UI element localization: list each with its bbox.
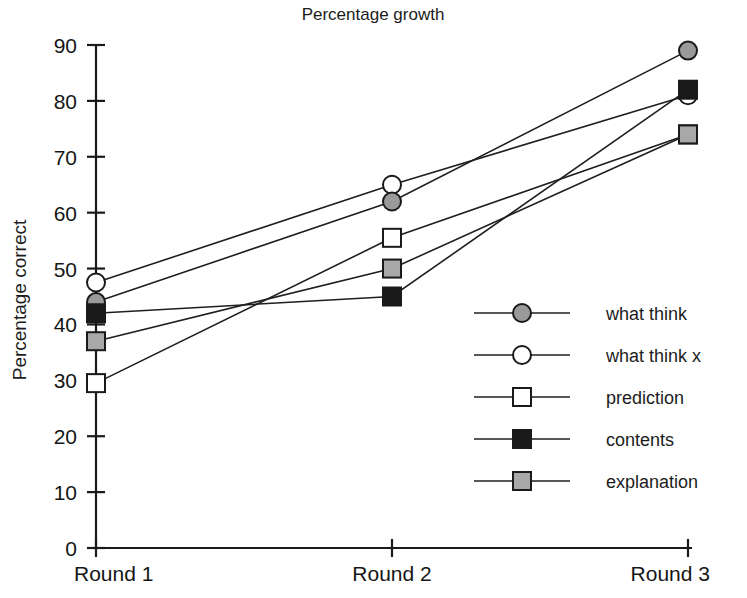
y-tick-label: 80: [54, 90, 77, 113]
series-2-pt-0-open-square-marker: [87, 374, 105, 392]
y-tick-label: 40: [54, 313, 77, 336]
series-4-pt-0-gray-square-marker: [87, 332, 105, 350]
legend-label-1: what think x: [605, 346, 701, 366]
legend-0-gray-circle-marker: [513, 304, 531, 322]
series-lines: [96, 51, 688, 384]
legend-label-4: explanation: [606, 472, 698, 492]
y-tick-label: 50: [54, 258, 77, 281]
y-axis-title: Percentage correct: [9, 219, 30, 380]
x-tick-label-2: Round 2: [352, 562, 431, 585]
y-tick-label: 20: [54, 425, 77, 448]
y-tick-label: 0: [65, 537, 77, 560]
series-2-pt-1-open-square-marker: [383, 229, 401, 247]
y-tick-label: 60: [54, 202, 77, 225]
series-3-pt-1-black-square-marker: [383, 288, 401, 306]
series-0-pt-2-gray-circle-marker: [679, 42, 697, 60]
legend-entry-3: contents: [474, 430, 674, 450]
y-tick-label: 70: [54, 146, 77, 169]
series-4-pt-1-gray-square-marker: [383, 260, 401, 278]
y-tick-label: 10: [54, 481, 77, 504]
legend-entry-2: prediction: [474, 388, 684, 408]
line-chart: Percentage growth Percentage correct 010…: [0, 0, 747, 598]
legend-1-open-circle-marker: [513, 346, 531, 364]
series-3-pt-0-black-square-marker: [87, 304, 105, 322]
series-1-pt-0-open-circle-marker: [87, 274, 105, 292]
y-tick-label: 30: [54, 369, 77, 392]
chart-title: Percentage growth: [302, 5, 445, 24]
legend-label-2: prediction: [606, 388, 684, 408]
legend-entry-0: what think: [474, 304, 688, 324]
series-3-pt-2-black-square-marker: [679, 81, 697, 99]
series-1-pt-1-open-circle-marker: [383, 176, 401, 194]
legend-label-3: contents: [606, 430, 674, 450]
x-tick-label-3: Round 3: [631, 562, 710, 585]
legend-2-open-square-marker: [513, 388, 531, 406]
chart-container: Percentage growth Percentage correct 010…: [0, 0, 747, 598]
x-axis-ticks: Round 1Round 2Round 3: [74, 539, 710, 585]
series-4-pt-2-gray-square-marker: [679, 125, 697, 143]
chart-legend: what thinkwhat think xpredictioncontents…: [474, 304, 701, 492]
legend-label-0: what think: [605, 304, 688, 324]
legend-entry-1: what think x: [474, 346, 701, 366]
legend-3-black-square-marker: [513, 430, 531, 448]
series-0-pt-1-gray-circle-marker: [383, 192, 401, 210]
legend-4-gray-square-marker: [513, 472, 531, 490]
x-tick-label-1: Round 1: [74, 562, 153, 585]
series-markers: [87, 42, 697, 393]
y-tick-label: 90: [54, 34, 77, 57]
legend-entry-4: explanation: [474, 472, 698, 492]
